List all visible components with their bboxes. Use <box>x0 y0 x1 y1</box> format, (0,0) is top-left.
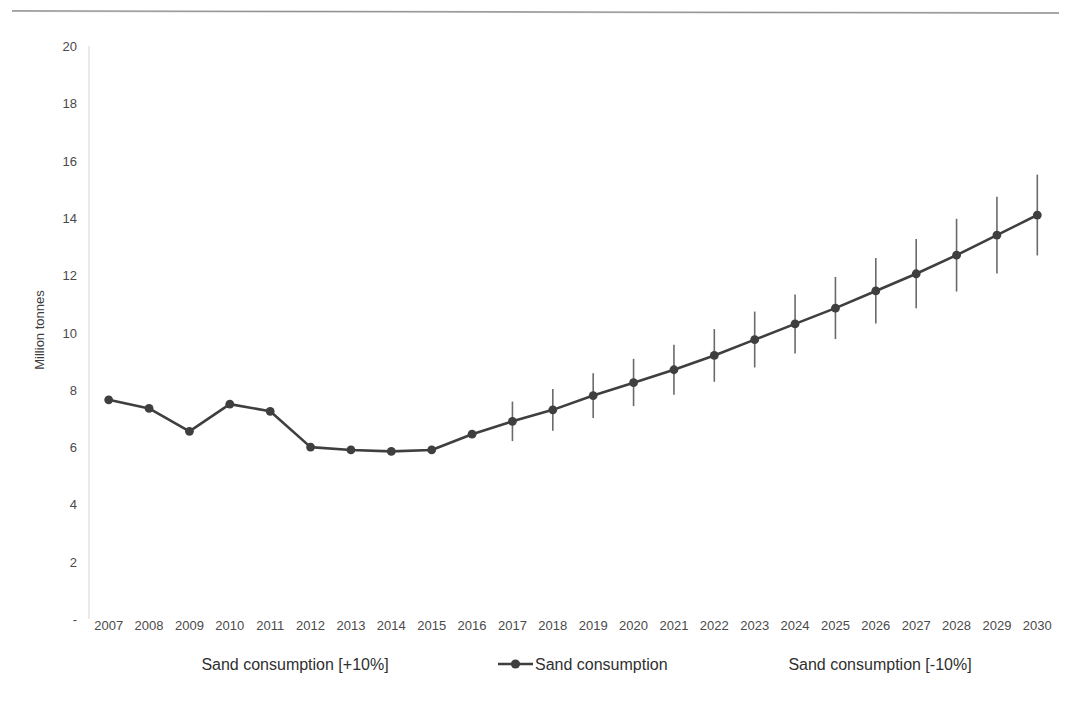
data-point-marker <box>548 405 557 414</box>
y-tick-label: 2 <box>70 555 77 570</box>
sand-consumption-line <box>109 215 1038 451</box>
data-point-marker <box>791 320 800 329</box>
x-tick-label: 2007 <box>94 618 123 633</box>
data-point-marker <box>468 430 477 439</box>
data-point-marker <box>104 395 113 404</box>
data-point-marker <box>710 351 719 360</box>
x-tick-label: 2016 <box>458 618 487 633</box>
y-tick-label-group: -2468101214161820 <box>63 39 77 627</box>
x-tick-label: 2023 <box>740 618 769 633</box>
y-tick-label: 18 <box>63 96 77 111</box>
data-point-marker <box>589 391 598 400</box>
data-point-marker <box>266 407 275 416</box>
chart-page: -2468101214161820 2007200820092010201120… <box>0 0 1071 705</box>
y-tick-label: 12 <box>63 268 77 283</box>
x-tick-label: 2013 <box>336 618 365 633</box>
line-chart-svg: -2468101214161820 2007200820092010201120… <box>0 0 1071 705</box>
x-tick-label: 2008 <box>135 618 164 633</box>
data-point-marker <box>993 231 1002 240</box>
data-point-marker <box>225 400 234 409</box>
legend-item-sand-consumption-marker <box>511 659 520 668</box>
data-point-marker <box>387 447 396 456</box>
y-axis-title: Million tonnes <box>32 290 47 370</box>
x-tick-label-group: 2007200820092010201120122013201420152016… <box>94 618 1052 633</box>
data-point-marker <box>185 427 194 436</box>
data-point-marker <box>912 269 921 278</box>
x-tick-label: 2020 <box>619 618 648 633</box>
x-tick-label: 2010 <box>215 618 244 633</box>
data-point-marker <box>306 443 315 452</box>
x-tick-label: 2009 <box>175 618 204 633</box>
x-tick-label: 2015 <box>417 618 446 633</box>
x-tick-label: 2012 <box>296 618 325 633</box>
x-tick-label: 2022 <box>700 618 729 633</box>
y-tick-label: 8 <box>70 383 77 398</box>
x-axis-group: 2007200820092010201120122013201420152016… <box>94 618 1052 633</box>
x-tick-label: 2024 <box>781 618 810 633</box>
y-tick-label: 16 <box>63 154 77 169</box>
data-point-marker <box>871 287 880 296</box>
data-point-marker <box>831 304 840 313</box>
x-tick-label: 2030 <box>1023 618 1052 633</box>
y-tick-label: 6 <box>70 440 77 455</box>
y-tick-label: 4 <box>70 497 77 512</box>
x-tick-label: 2025 <box>821 618 850 633</box>
chart-container: -2468101214161820 2007200820092010201120… <box>0 0 1071 705</box>
legend-item-plus10-label[interactable]: Sand consumption [+10%] <box>201 656 388 673</box>
data-point-marker <box>629 378 638 387</box>
y-axis-group: -2468101214161820 <box>63 39 89 627</box>
x-tick-label: 2027 <box>902 618 931 633</box>
x-tick-label: 2017 <box>498 618 527 633</box>
x-tick-label: 2021 <box>659 618 688 633</box>
data-point-marker <box>508 417 517 426</box>
y-tick-label: 20 <box>63 39 77 54</box>
y-tick-label: 10 <box>63 326 77 341</box>
legend-item-minus10-label[interactable]: Sand consumption [-10%] <box>788 656 971 673</box>
x-tick-label: 2029 <box>982 618 1011 633</box>
x-tick-label: 2011 <box>256 618 284 633</box>
data-point-marker <box>427 446 436 455</box>
x-tick-label: 2028 <box>942 618 971 633</box>
data-point-marker <box>670 365 679 374</box>
x-tick-label: 2026 <box>861 618 890 633</box>
legend: Sand consumption [+10%] Sand consumption… <box>201 656 971 673</box>
legend-item-sand-consumption-label[interactable]: Sand consumption <box>535 656 668 673</box>
data-point-marker <box>347 446 356 455</box>
data-point-marker <box>750 335 759 344</box>
data-point-marker-group <box>104 211 1041 456</box>
x-tick-label: 2019 <box>579 618 608 633</box>
error-bar-group <box>512 175 1037 441</box>
x-tick-label: 2014 <box>377 618 406 633</box>
data-point-marker <box>145 404 154 413</box>
x-tick-label: 2018 <box>538 618 567 633</box>
y-tick-label: 14 <box>63 211 77 226</box>
data-point-marker <box>1033 211 1042 220</box>
y-tick-label: - <box>73 612 77 627</box>
data-point-marker <box>952 251 961 260</box>
